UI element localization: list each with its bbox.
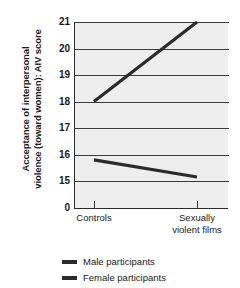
plot-area (74, 22, 228, 208)
x-tick-label-sexually-line-1: Sexually (179, 212, 215, 223)
legend-swatch-male-icon (62, 260, 77, 264)
x-axis-line (74, 208, 228, 209)
x-tick-label-sexually-line-2: violent films (172, 224, 222, 235)
x-tick-label-controls: Controls (51, 212, 137, 224)
chart-figure: Acceptance of interpersonal violence (to… (0, 0, 240, 288)
gridline-18 (75, 102, 229, 103)
y-axis-tick-labels: 21 20 19 18 17 16 15 0 (48, 22, 70, 208)
legend-label-male: Male participants (83, 257, 155, 267)
legend-swatch-female-icon (62, 276, 77, 280)
x-tick-controls (94, 201, 95, 209)
x-tick-sexually-violent-films (197, 201, 198, 209)
legend-item-male: Male participants (62, 256, 166, 268)
chart-legend: Male participants Female participants (62, 256, 166, 284)
y-axis-title-line-2: violence (toward women): AIV score (32, 29, 44, 188)
y-tick-label-16: 16 (48, 150, 70, 160)
y-tick-label-17: 17 (48, 123, 70, 133)
y-tick-label-18: 18 (48, 97, 70, 107)
legend-label-female: Female participants (83, 273, 166, 283)
gridline-19 (75, 75, 229, 76)
y-tick-label-21: 21 (48, 17, 70, 27)
y-tick-label-15: 15 (48, 176, 70, 186)
legend-item-female: Female participants (62, 272, 166, 284)
gridline-21 (75, 22, 229, 23)
x-tick-label-sexually-violent-films: Sexually violent films (154, 212, 240, 235)
gridline-15 (75, 181, 229, 182)
gridline-17 (75, 128, 229, 129)
y-axis-title-line-1: Acceptance of interpersonal (20, 46, 32, 171)
x-tick-label-controls-text: Controls (76, 212, 111, 223)
y-tick-label-19: 19 (48, 70, 70, 80)
gridline-20 (75, 49, 229, 50)
y-axis-break-stub (74, 186, 75, 209)
y-tick-label-20: 20 (48, 44, 70, 54)
gridline-16 (75, 155, 229, 156)
